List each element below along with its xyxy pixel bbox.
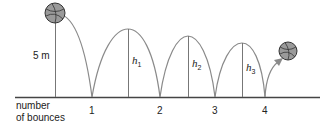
basketball-icon bbox=[45, 3, 65, 23]
initial-height-label: 5 m bbox=[33, 50, 50, 61]
trajectory-arc-3 bbox=[215, 43, 265, 97]
height-sub: 1 bbox=[138, 61, 142, 68]
bouncing-ball-diagram bbox=[0, 0, 335, 127]
trajectory-drop bbox=[60, 14, 92, 97]
height-label-2: h2 bbox=[192, 58, 201, 73]
trajectory-rising bbox=[265, 62, 278, 97]
bounce-label-3: 3 bbox=[212, 105, 218, 116]
bounce-label-4: 4 bbox=[262, 105, 268, 116]
trajectory-arc-1 bbox=[92, 29, 160, 97]
height-sub: 3 bbox=[252, 68, 256, 75]
trajectory-arc-2 bbox=[160, 36, 215, 97]
bounce-label-1: 1 bbox=[89, 105, 95, 116]
axis-label-line1: number bbox=[16, 100, 50, 111]
height-label-3: h3 bbox=[246, 62, 255, 77]
bounce-label-2: 2 bbox=[157, 105, 163, 116]
basketball-icon bbox=[279, 42, 297, 60]
height-sub: 2 bbox=[198, 64, 202, 71]
height-label-1: h1 bbox=[132, 55, 141, 70]
axis-label-line2: of bounces bbox=[16, 112, 65, 123]
